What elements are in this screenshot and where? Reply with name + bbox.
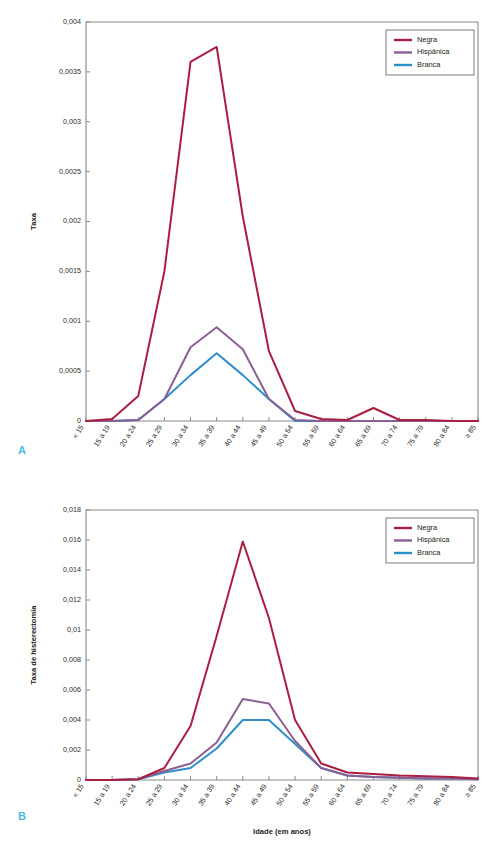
x-tick-label: ≥ 85 xyxy=(463,423,478,440)
y-tick-label: 0,0035 xyxy=(59,67,81,76)
x-tick-label: 65 a 69 xyxy=(353,782,373,807)
x-tick-label: 20 a 24 xyxy=(118,782,138,807)
x-tick-label: 15 a 19 xyxy=(91,782,111,807)
y-tick-label: 0,001 xyxy=(63,316,81,325)
y-axis-title: Taxa xyxy=(29,212,38,230)
y-tick-label: 0,018 xyxy=(63,505,81,514)
x-tick-label: 30 a 34 xyxy=(170,782,190,807)
y-tick-label: 0,008 xyxy=(63,655,81,664)
x-tick-label: 15 a 19 xyxy=(91,423,111,448)
x-tick-label: 80 a 84 xyxy=(431,423,451,448)
x-tick-label: 50 a 54 xyxy=(274,782,294,807)
legend-label: Branca xyxy=(417,548,441,557)
x-tick-label: 70 a 74 xyxy=(379,423,399,448)
legend-label: Negra xyxy=(417,35,438,44)
legend-label: Hispânica xyxy=(417,535,450,544)
panel-a: 00,00050,0010,00150,0020,00250,0030,0035… xyxy=(0,0,496,470)
x-tick-label: 20 a 24 xyxy=(118,423,138,448)
series-line-negra xyxy=(86,47,478,421)
panel-b: 00,0020,0040,0060,0080,010,0120,0140,016… xyxy=(0,470,496,841)
x-tick-label: 60 a 64 xyxy=(327,782,347,807)
x-axis-title: Idade (em anos) xyxy=(253,827,311,836)
y-tick-label: 0,002 xyxy=(63,745,81,754)
x-tick-label: 45 a 49 xyxy=(248,423,268,448)
x-tick-label: 80 a 84 xyxy=(431,782,451,807)
x-tick-label: 55 a 59 xyxy=(301,782,321,807)
legend-label: Negra xyxy=(417,523,438,532)
panel-a-letter: A xyxy=(18,444,26,456)
x-tick-label: 35 a 39 xyxy=(196,782,216,807)
chart-b: 00,0020,0040,0060,0080,010,0120,0140,016… xyxy=(0,470,496,841)
panel-b-letter: B xyxy=(18,810,26,822)
y-axis-title: Taxa de histerectomia xyxy=(29,605,38,685)
series-line-hispnica xyxy=(86,699,478,780)
series-line-negra xyxy=(86,542,478,781)
series-line-branca xyxy=(86,720,478,780)
y-tick-label: 0,002 xyxy=(63,216,81,225)
x-tick-label: 25 a 29 xyxy=(144,782,164,807)
x-tick-label: 55 a 59 xyxy=(301,423,321,448)
x-tick-label: 75 a 79 xyxy=(405,782,425,807)
x-tick-label: 35 a 39 xyxy=(196,423,216,448)
x-tick-label: 40 a 44 xyxy=(222,423,242,448)
series-line-hispnica xyxy=(86,327,478,421)
x-tick-label: < 15 xyxy=(71,423,86,440)
y-tick-label: 0,0015 xyxy=(59,266,81,275)
y-tick-label: 0,01 xyxy=(67,625,81,634)
y-tick-label: 0,0025 xyxy=(59,167,81,176)
y-tick-label: 0,004 xyxy=(63,715,81,724)
x-tick-label: 45 a 49 xyxy=(248,782,268,807)
chart-a: 00,00050,0010,00150,0020,00250,0030,0035… xyxy=(0,0,496,470)
y-tick-label: 0,004 xyxy=(63,17,81,26)
y-tick-label: 0,003 xyxy=(63,117,81,126)
y-tick-label: 0,0005 xyxy=(59,366,81,375)
x-tick-label: 50 a 54 xyxy=(274,423,294,448)
x-tick-label: 65 a 69 xyxy=(353,423,373,448)
y-tick-label: 0,016 xyxy=(63,535,81,544)
x-tick-label: ≥ 85 xyxy=(463,782,478,799)
x-tick-label: 25 a 29 xyxy=(144,423,164,448)
x-tick-label: 30 a 34 xyxy=(170,423,190,448)
figure-container: 00,00050,0010,00150,0020,00250,0030,0035… xyxy=(0,0,496,841)
x-tick-label: 60 a 64 xyxy=(327,423,347,448)
y-tick-label: 0,014 xyxy=(63,565,81,574)
y-tick-label: 0,012 xyxy=(63,595,81,604)
legend-label: Hispânica xyxy=(417,47,450,56)
x-tick-label: 75 a 79 xyxy=(405,423,425,448)
y-tick-label: 0,006 xyxy=(63,685,81,694)
x-tick-label: < 15 xyxy=(71,782,86,799)
legend-label: Branca xyxy=(417,60,441,69)
x-tick-label: 70 a 74 xyxy=(379,782,399,807)
x-tick-label: 40 a 44 xyxy=(222,782,242,807)
